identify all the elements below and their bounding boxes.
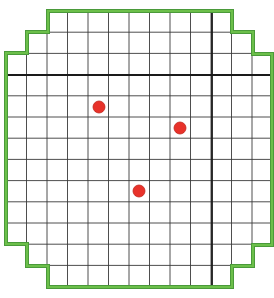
point-3-marker [133, 185, 145, 197]
boundary-outline-inner [6, 11, 272, 287]
grid-lines [6, 11, 272, 287]
point-2-marker [174, 122, 186, 134]
grid-diagram-svg [0, 0, 274, 298]
boundary-outline [6, 11, 272, 287]
boundary-outline-outer [6, 11, 272, 287]
grid-diagram [0, 0, 274, 298]
axes [6, 11, 272, 287]
point-1-marker [93, 101, 105, 113]
markers [93, 101, 186, 197]
